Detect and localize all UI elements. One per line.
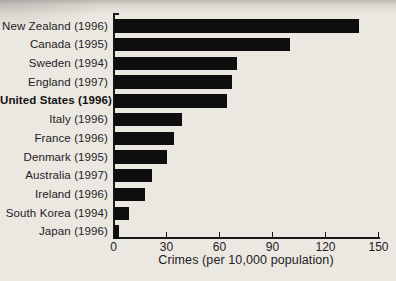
category-label: England (1997) bbox=[0, 74, 108, 91]
category-label: Ireland (1996) bbox=[0, 186, 108, 203]
bar bbox=[114, 132, 174, 145]
category-label: Japan (1996) bbox=[0, 223, 108, 240]
x-axis-tick-label: 90 bbox=[256, 240, 290, 254]
x-axis-tick bbox=[166, 232, 168, 237]
bar bbox=[114, 57, 238, 70]
crime-rates-bar-chart: Crimes (per 10,000 population) New Zeala… bbox=[0, 0, 396, 281]
category-label: Italy (1996) bbox=[0, 111, 108, 128]
category-label: New Zealand (1996) bbox=[0, 18, 108, 35]
bar bbox=[114, 19, 360, 32]
x-axis-line bbox=[113, 237, 380, 239]
x-axis-tick-label: 0 bbox=[97, 240, 131, 254]
x-axis-title: Crimes (per 10,000 population) bbox=[110, 253, 382, 267]
y-axis-top-tick bbox=[113, 13, 119, 15]
x-axis-tick bbox=[325, 232, 327, 237]
x-axis-tick bbox=[378, 232, 380, 237]
category-label: South Korea (1994) bbox=[0, 205, 108, 222]
x-axis-tick bbox=[219, 232, 221, 237]
category-label: Denmark (1995) bbox=[0, 149, 108, 166]
category-label: Canada (1995) bbox=[0, 36, 108, 53]
category-label: Sweden (1994) bbox=[0, 55, 108, 72]
category-label: France (1996) bbox=[0, 130, 108, 147]
x-axis-tick-label: 150 bbox=[362, 240, 396, 254]
bar bbox=[114, 94, 227, 107]
x-axis-tick-label: 30 bbox=[150, 240, 184, 254]
x-axis-tick bbox=[113, 232, 115, 237]
bar bbox=[114, 225, 119, 238]
x-axis-tick bbox=[272, 232, 274, 237]
x-axis-tick-label: 60 bbox=[203, 240, 237, 254]
bar bbox=[114, 169, 153, 182]
category-label: Australia (1997) bbox=[0, 167, 108, 184]
category-label: United States (1996) bbox=[0, 92, 108, 109]
bar bbox=[114, 113, 183, 126]
bar bbox=[114, 207, 130, 220]
bar bbox=[114, 75, 232, 88]
x-axis-tick-label: 120 bbox=[309, 240, 343, 254]
bar bbox=[114, 188, 146, 201]
bar bbox=[114, 150, 167, 163]
bar bbox=[114, 38, 291, 51]
